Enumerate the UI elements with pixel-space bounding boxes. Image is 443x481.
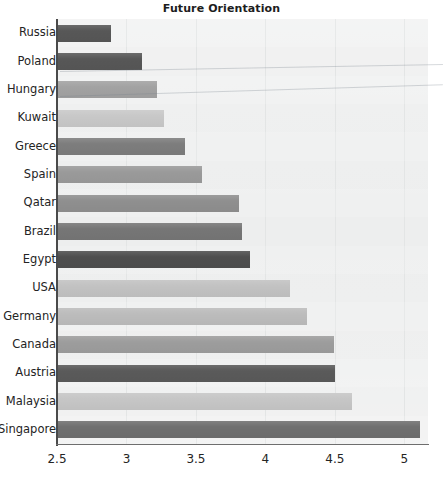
bar-shading [57, 195, 239, 212]
y-tick-label-russia: Russia [0, 25, 56, 39]
bar-shading [57, 223, 242, 240]
y-tick-label-austria: Austria [0, 365, 56, 379]
y-tick-label-egypt: Egypt [0, 252, 56, 266]
bar-egypt[interactable] [57, 251, 250, 268]
bar-austria[interactable] [57, 365, 335, 382]
bar-kuwait[interactable] [57, 110, 164, 127]
bar-greece[interactable] [57, 138, 185, 155]
bar-shading [57, 81, 157, 98]
bar-malaysia[interactable] [57, 393, 352, 410]
x-tick-label-3: 3 [103, 452, 149, 466]
y-tick-label-kuwait: Kuwait [0, 110, 56, 124]
bar-hungary[interactable] [57, 81, 157, 98]
bar-singapore[interactable] [57, 421, 420, 438]
bar-shading [57, 421, 420, 438]
x-axis-spine [56, 444, 429, 445]
y-tick-label-usa: USA [0, 280, 56, 294]
x-tick-label-4.5: 4.5 [312, 452, 358, 466]
y-tick-label-hungary: Hungary [0, 82, 56, 96]
bar-usa[interactable] [57, 280, 290, 297]
bar-shading [57, 336, 334, 353]
x-tick-label-2.5: 2.5 [34, 452, 80, 466]
y-tick-label-qatar: Qatar [0, 195, 56, 209]
plot-area [57, 19, 428, 444]
bar-shading [57, 280, 290, 297]
bar-brazil[interactable] [57, 223, 242, 240]
x-tick-label-4: 4 [242, 452, 288, 466]
y-tick-label-greece: Greece [0, 139, 56, 153]
bar-shading [57, 138, 185, 155]
x-tick-label-5: 5 [381, 452, 427, 466]
y-tick-label-poland: Poland [0, 54, 56, 68]
bar-shading [57, 393, 352, 410]
bar-shading [57, 365, 335, 382]
bar-shading [57, 53, 142, 70]
bar-poland[interactable] [57, 53, 142, 70]
bar-qatar[interactable] [57, 195, 239, 212]
y-tick-label-canada: Canada [0, 337, 56, 351]
bar-germany[interactable] [57, 308, 307, 325]
y-tick-label-brazil: Brazil [0, 224, 56, 238]
bar-shading [57, 308, 307, 325]
chart-figure: Future Orientation RussiaPolandHungaryKu… [0, 0, 443, 481]
y-tick-label-spain: Spain [0, 167, 56, 181]
y-axis-spine [56, 19, 58, 446]
chart-title: Future Orientation [0, 2, 443, 15]
y-tick-label-germany: Germany [0, 309, 56, 323]
bar-canada[interactable] [57, 336, 334, 353]
y-tick-label-singapore: Singapore [0, 422, 56, 436]
bar-shading [57, 110, 164, 127]
y-tick-label-malaysia: Malaysia [0, 394, 56, 408]
row-band [57, 19, 428, 47]
x-tick-label-3.5: 3.5 [173, 452, 219, 466]
bar-russia[interactable] [57, 25, 111, 42]
bar-shading [57, 251, 250, 268]
bar-shading [57, 25, 111, 42]
bar-shading [57, 166, 202, 183]
bar-spain[interactable] [57, 166, 202, 183]
